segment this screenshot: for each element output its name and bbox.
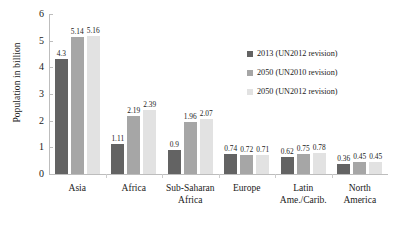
bar[interactable]: [143, 110, 156, 174]
bar[interactable]: [297, 154, 310, 174]
bar-value-label: 4.3: [57, 50, 66, 58]
bar-item[interactable]: 2.07: [200, 14, 213, 174]
x-axis-category-label: Sub-Saharan Africa: [162, 183, 219, 206]
bar-value-label: 2.19: [127, 107, 140, 115]
y-axis-tick-label: 1: [18, 142, 44, 152]
x-axis-category-label: Latin Ame./Carib.: [275, 183, 332, 206]
y-axis-tick-label: 0: [18, 169, 44, 179]
bar-value-label: 1.96: [184, 113, 197, 121]
x-axis-category-label: Africa: [106, 183, 163, 195]
bar[interactable]: [200, 119, 213, 174]
bar[interactable]: [256, 155, 269, 174]
bar-value-label: 0.74: [224, 145, 237, 153]
bar[interactable]: [87, 36, 100, 174]
x-axis-category-label: North America: [332, 183, 389, 206]
bar-group-bars: 1.112.192.39: [111, 14, 156, 174]
legend-color-swatch-icon: [247, 51, 253, 57]
bar-group: 1.112.192.39: [111, 14, 156, 174]
bar-value-label: 0.78: [313, 144, 326, 152]
bar[interactable]: [313, 153, 326, 174]
population-bar-chart: Population in billion 0123456 4.35.145.1…: [0, 0, 400, 225]
bar[interactable]: [369, 162, 382, 174]
bar-group-bars: 0.91.962.07: [168, 14, 213, 174]
x-axis-tick-mark: [219, 174, 220, 178]
bar-value-label: 0.45: [353, 153, 366, 161]
chart-legend: 2013 (UN2012 revision)2050 (UN2010 revis…: [247, 44, 387, 101]
bar[interactable]: [55, 59, 68, 174]
y-axis-tick-label: 4: [18, 62, 44, 72]
bar-value-label: 5.14: [71, 28, 84, 36]
bar-value-label: 0.45: [369, 153, 382, 161]
legend-item[interactable]: 2013 (UN2012 revision): [247, 44, 387, 63]
bar-value-label: 0.36: [337, 155, 350, 163]
x-axis-tick-mark: [106, 174, 107, 178]
bar-value-label: 0.9: [170, 141, 179, 149]
bar-item[interactable]: 4.3: [55, 14, 68, 174]
legend-item-label: 2050 (UN2012 revision): [257, 87, 338, 96]
x-axis-category-label: Asia: [49, 183, 106, 195]
y-axis-tick-label: 6: [18, 9, 44, 19]
x-axis-category-label: Europe: [219, 183, 276, 195]
bar[interactable]: [281, 157, 294, 174]
bar[interactable]: [71, 37, 84, 174]
bar-value-label: 2.39: [143, 101, 156, 109]
bar-value-label: 0.72: [240, 146, 253, 154]
bar[interactable]: [224, 154, 237, 174]
bar[interactable]: [184, 122, 197, 174]
bar[interactable]: [168, 150, 181, 174]
bar-item[interactable]: 5.16: [87, 14, 100, 174]
bar-group-bars: 4.35.145.16: [55, 14, 100, 174]
bar-value-label: 2.07: [200, 110, 213, 118]
bar[interactable]: [337, 164, 350, 174]
x-axis-tick-mark: [332, 174, 333, 178]
y-axis-tick-label: 2: [18, 116, 44, 126]
legend-item-label: 2050 (UN2010 revision): [257, 68, 338, 77]
bar-value-label: 0.75: [297, 145, 310, 153]
legend-item[interactable]: 2050 (UN2012 revision): [247, 82, 387, 101]
bar-group: 0.91.962.07: [168, 14, 213, 174]
bar-value-label: 0.71: [256, 146, 269, 154]
bar[interactable]: [240, 155, 253, 174]
y-axis-tick-label: 3: [18, 89, 44, 99]
bar[interactable]: [127, 116, 140, 174]
bar-value-label: 0.62: [281, 148, 294, 156]
bar-item[interactable]: 0.74: [224, 14, 237, 174]
bar-value-label: 5.16: [87, 27, 100, 35]
bar-item[interactable]: 1.11: [111, 14, 124, 174]
x-axis-tick-mark: [275, 174, 276, 178]
legend-color-swatch-icon: [247, 89, 253, 95]
bar-value-label: 1.11: [111, 135, 124, 143]
bar[interactable]: [111, 144, 124, 174]
legend-item[interactable]: 2050 (UN2010 revision): [247, 63, 387, 82]
bar-item[interactable]: 0.9: [168, 14, 181, 174]
bar-item[interactable]: 2.19: [127, 14, 140, 174]
bar-item[interactable]: 1.96: [184, 14, 197, 174]
legend-item-label: 2013 (UN2012 revision): [257, 49, 338, 58]
legend-color-swatch-icon: [247, 70, 253, 76]
x-axis-tick-mark: [162, 174, 163, 178]
y-axis-tick-label: 5: [18, 36, 44, 46]
bar-item[interactable]: 2.39: [143, 14, 156, 174]
bar-item[interactable]: 5.14: [71, 14, 84, 174]
bar[interactable]: [353, 162, 366, 174]
bar-group: 4.35.145.16: [55, 14, 100, 174]
